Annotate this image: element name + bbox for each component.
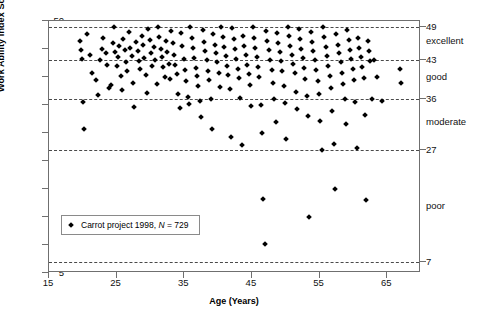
data-point [359,64,365,70]
data-point [257,74,263,80]
x-tick-label-65: 65 [366,277,406,288]
data-point [278,58,284,64]
band-name-moderate: moderate [426,115,466,126]
data-point [258,102,264,108]
data-point [319,147,325,153]
data-point [289,52,295,58]
data-point [192,55,198,61]
data-point [292,70,298,76]
data-point [146,26,152,32]
data-point [305,113,311,119]
data-point [228,135,234,141]
data-point [348,56,354,62]
data-point [338,60,344,66]
data-point [231,36,237,42]
data-point [242,43,248,49]
data-point [131,104,137,110]
data-point [281,83,287,89]
data-point [116,43,122,49]
x-tick-label-55: 55 [299,277,339,288]
data-point [114,64,120,70]
data-point [282,100,288,106]
data-point [150,63,156,69]
data-point [216,70,222,76]
band-name-poor: poor [426,199,445,210]
x-tick-mark-15 [48,272,49,278]
x-tick-mark-25 [116,272,117,278]
data-point [271,97,277,103]
data-point [140,42,146,48]
data-point [144,90,150,96]
data-point [255,64,261,70]
data-point [208,97,214,103]
data-point [225,72,231,78]
data-point [263,28,269,34]
data-point [297,36,303,42]
band-value-27: 27 [426,143,437,154]
data-point [294,107,300,113]
data-point [78,47,84,53]
data-point [87,52,93,58]
data-point [148,51,154,57]
data-point [323,44,329,50]
data-point [321,34,327,40]
data-point [274,30,280,36]
data-point [81,126,87,132]
data-point [213,51,219,57]
data-point [221,44,227,50]
data-point [173,62,179,68]
data-point [160,64,166,70]
data-point [206,78,212,84]
x-tick-label-45: 45 [231,277,271,288]
data-point [156,34,162,40]
data-point [103,51,109,57]
data-point [185,94,191,100]
data-point [334,32,340,38]
data-point [171,52,177,58]
data-point [312,57,318,63]
data-point [280,69,286,75]
data-point [158,46,164,52]
data-point [371,57,377,63]
data-point [362,112,368,118]
data-point [118,74,124,80]
data-point [309,39,315,45]
scatter-plot-figure: Work Ability Index Score 510152025303540… [0,0,487,320]
data-point [335,42,341,48]
data-point [175,91,181,97]
data-point [178,30,184,36]
data-point [269,67,275,73]
data-point [300,55,306,61]
data-point [304,93,310,99]
data-point [330,108,336,114]
data-point [89,70,95,76]
x-axis-label: Age (Years) [48,296,420,306]
data-point [227,86,233,92]
data-point [177,106,183,112]
data-point [236,75,242,81]
data-point [136,58,142,64]
data-point [252,45,258,51]
data-point [181,56,187,62]
data-point [169,28,175,34]
data-point [205,69,211,75]
data-point [188,24,194,30]
data-point [328,85,334,91]
data-point [266,47,272,53]
data-point [247,82,253,88]
data-point [293,89,299,95]
legend-diamond-icon [68,222,74,228]
data-point [215,60,221,66]
data-point [137,66,143,72]
data-point [179,43,185,49]
data-point [238,95,244,101]
data-point [397,66,403,72]
data-point [325,63,331,69]
data-point [115,55,121,61]
data-point [100,35,106,41]
data-point [235,66,241,72]
data-point [342,97,348,103]
data-point [288,43,294,49]
x-tick-label-25: 25 [96,277,136,288]
data-point [259,130,265,136]
